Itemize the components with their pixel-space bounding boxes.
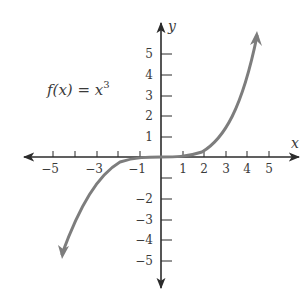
svg-text:−5: −5 [135,254,153,268]
cubic-function-graph: −5 −3 −1 1 2 3 4 5 5 4 3 2 1 −2 −3 −4 −5… [0,0,308,295]
svg-text:4: 4 [243,162,251,176]
svg-text:−2: −2 [135,192,153,206]
y-axis-label: y [167,18,177,34]
svg-text:4: 4 [145,68,153,82]
svg-text:1: 1 [179,162,187,176]
svg-text:−4: −4 [135,233,153,247]
svg-text:3: 3 [222,162,230,176]
function-label: f(x) = x3 [46,79,110,99]
svg-text:2: 2 [200,162,208,176]
cubic-curve [62,36,257,254]
svg-text:−3: −3 [135,213,153,227]
svg-text:5: 5 [145,47,153,61]
x-axis-label: x [291,135,299,151]
svg-text:2: 2 [145,109,153,123]
svg-text:−5: −5 [41,162,59,176]
svg-text:−3: −3 [85,162,103,176]
svg-text:1: 1 [145,130,153,144]
svg-text:3: 3 [145,89,153,103]
svg-text:−1: −1 [128,162,146,176]
svg-text:5: 5 [265,162,273,176]
x-tick-labels: −5 −3 −1 1 2 3 4 5 [41,162,273,176]
